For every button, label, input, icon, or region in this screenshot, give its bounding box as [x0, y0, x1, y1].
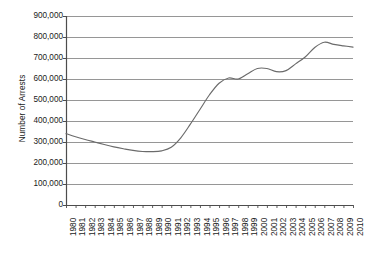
x-axis-tick-label: 1985 — [117, 218, 125, 236]
x-axis-tick-label: 1987 — [137, 218, 145, 236]
x-axis-tick-label: 1984 — [108, 218, 116, 236]
x-axis-tick-label: 1998 — [242, 218, 250, 236]
x-axis-tick-label: 1986 — [127, 218, 135, 236]
x-axis-tick-label: 1982 — [89, 218, 97, 236]
x-axis-tick-label: 2005 — [309, 218, 317, 236]
x-axis-tick-label: 1994 — [204, 218, 212, 236]
x-axis-tick-label: 1980 — [70, 218, 78, 236]
x-axis-tick-label: 2002 — [280, 218, 288, 236]
x-axis-tick-label: 1997 — [232, 218, 240, 236]
x-axis-tick-label: 1996 — [223, 218, 231, 236]
x-axis-tick-label: 2006 — [318, 218, 326, 236]
x-axis-tick-label: 1993 — [194, 218, 202, 236]
x-axis-tick-label: 1991 — [175, 218, 183, 236]
x-axis-tick-label: 2004 — [299, 218, 307, 236]
x-axis-tick-label: 2009 — [347, 218, 355, 236]
x-axis-tick-label: 1989 — [156, 218, 164, 236]
x-axis-tick-label: 2001 — [271, 218, 279, 236]
x-axis-tick-label: 1992 — [184, 218, 192, 236]
x-axis-tick-label: 2003 — [290, 218, 298, 236]
x-axis-tick-label: 1995 — [213, 218, 221, 236]
x-axis-tick-label: 2010 — [357, 218, 365, 236]
x-axis-tick-label: 2008 — [337, 218, 345, 236]
x-axis-tick-label: 1988 — [146, 218, 154, 236]
x-axis-tick-label: 1990 — [165, 218, 173, 236]
x-axis-tick-label: 2000 — [261, 218, 269, 236]
x-axis-tick-label: 2007 — [328, 218, 336, 236]
x-axis-tick-label: 1999 — [251, 218, 259, 236]
x-axis-tick-label: 1981 — [79, 218, 87, 236]
chart-container: Number of Arrests 0100,000200,000300,000… — [0, 0, 367, 263]
x-axis-tick-label: 1983 — [98, 218, 106, 236]
